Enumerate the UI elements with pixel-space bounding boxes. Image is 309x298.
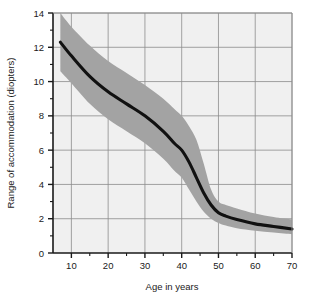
x-tick-label: 30 (140, 260, 151, 271)
x-tick-label: 20 (103, 260, 114, 271)
accommodation-vs-age-chart: 10203040506070 02468101214 Age in years … (0, 0, 309, 298)
y-tick-label: 4 (39, 179, 44, 190)
x-tick-label: 70 (287, 260, 298, 271)
x-axis-title: Age in years (146, 281, 199, 292)
y-tick-label: 8 (39, 110, 44, 121)
y-tick-label: 0 (39, 248, 44, 259)
x-tick-label: 50 (213, 260, 224, 271)
y-tick-label: 6 (39, 145, 44, 156)
y-axis-title: Range of accommodation (diopters) (5, 57, 16, 208)
chart-canvas: 10203040506070 02468101214 Age in years … (0, 0, 309, 298)
x-tick-label: 60 (250, 260, 261, 271)
x-tick-label: 10 (66, 260, 77, 271)
y-tick-label: 2 (39, 213, 44, 224)
y-tick-label: 10 (33, 76, 44, 87)
y-tick-label: 12 (33, 42, 44, 53)
x-tick-label: 40 (176, 260, 187, 271)
y-tick-label: 14 (33, 8, 44, 19)
